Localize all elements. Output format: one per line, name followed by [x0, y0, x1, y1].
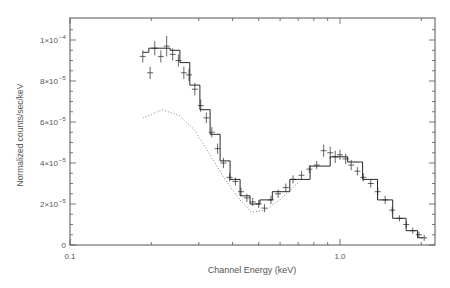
data-point — [232, 177, 238, 185]
y-axis: 02×10−54×10−56×10−58×10−51×10−4 — [40, 30, 435, 250]
data-point — [164, 36, 170, 57]
data-point — [416, 232, 422, 238]
y-tick-exponent: −5 — [59, 116, 67, 122]
x-tick-label: 1.0 — [334, 252, 346, 261]
x-axis: 0.11.0 — [64, 18, 421, 261]
model-curve — [143, 48, 423, 238]
x-axis-label: Channel Energy (keV) — [208, 265, 297, 275]
data-point — [238, 188, 244, 196]
y-tick-label: 2×10 — [40, 200, 59, 209]
data-point — [283, 184, 289, 192]
data-point — [343, 154, 349, 164]
data-point — [256, 200, 262, 208]
data-point — [250, 198, 256, 206]
spectrum-chart: 02×10−54×10−56×10−58×10−51×10−4 0.11.0 C… — [0, 0, 450, 288]
x-tick-label: 0.1 — [64, 252, 76, 261]
data-point — [410, 228, 416, 234]
data-point — [290, 175, 296, 183]
data-point — [354, 167, 360, 175]
y-tick-exponent: −5 — [59, 157, 67, 163]
data-point — [389, 207, 395, 213]
data-point — [348, 160, 354, 170]
y-axis-label: Normalized counts/sec/keV — [15, 83, 25, 186]
data-point — [147, 67, 153, 79]
y-tick-exponent: −5 — [59, 198, 67, 204]
data-point — [396, 215, 402, 221]
data-point — [158, 50, 164, 62]
data-point — [368, 179, 374, 187]
data-point — [152, 41, 158, 55]
data-point — [337, 150, 343, 160]
data-point — [321, 145, 327, 157]
y-tick-label: 4×10 — [40, 159, 59, 168]
data-point — [382, 196, 388, 204]
data-point — [268, 196, 274, 204]
data-point — [403, 221, 409, 227]
y-tick-label: 6×10 — [40, 118, 59, 127]
data-point — [298, 171, 304, 179]
data-point — [244, 194, 250, 202]
y-tick-label: 0 — [62, 241, 67, 250]
data-point — [227, 173, 233, 181]
data-point — [203, 113, 209, 123]
y-tick-exponent: −5 — [59, 75, 67, 81]
data-point — [421, 235, 427, 241]
data-point — [314, 161, 320, 169]
y-tick-exponent: −4 — [59, 34, 67, 40]
data-point — [375, 188, 381, 196]
plot-frame — [70, 18, 435, 245]
data-point — [175, 54, 181, 66]
y-tick-label: 1×10 — [40, 36, 59, 45]
data-point — [360, 173, 366, 181]
data-point — [186, 69, 192, 81]
plot-area — [140, 36, 427, 241]
data-point — [181, 67, 187, 79]
y-tick-label: 8×10 — [40, 77, 59, 86]
data-point — [275, 190, 281, 198]
data-point — [220, 158, 226, 168]
